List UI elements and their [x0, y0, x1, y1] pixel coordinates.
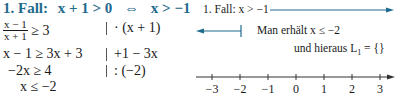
tick-label: −1 [258, 82, 278, 97]
solution-rhs: = {} [361, 42, 384, 54]
tick-label: 1 [314, 82, 334, 97]
tick-label: 2 [342, 82, 362, 97]
number-line-axis [196, 74, 395, 80]
case-range-arrow [270, 8, 394, 13]
tick-label: 3 [370, 82, 390, 97]
result-range-arrow [196, 25, 241, 37]
tick-label: −3 [202, 82, 222, 97]
solution-prefix: und hieraus L [294, 42, 357, 54]
result-text: Man erhält x ≤ −2 [257, 24, 340, 36]
tick-label: 0 [286, 82, 306, 97]
tick-label: −2 [230, 82, 250, 97]
case-range-label: 1. Fall: x > −1 [203, 3, 269, 15]
solution-set: und hieraus L1 = {} [294, 42, 385, 57]
